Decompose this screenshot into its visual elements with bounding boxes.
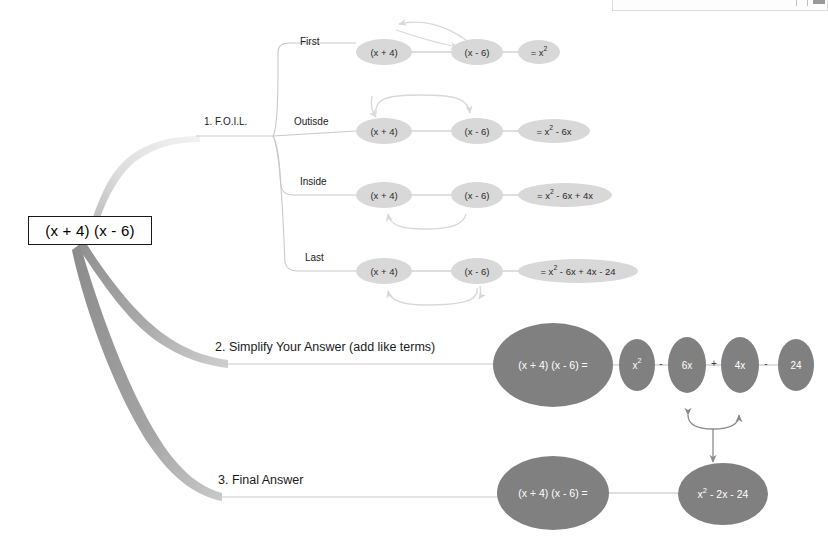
branch-label-simplify: 2. Simplify Your Answer (add like terms): [215, 340, 435, 354]
subbranch-label-first: First: [300, 36, 320, 47]
arrow-like-terms-u: [688, 415, 739, 429]
simplify-term-6x-label: 6x: [682, 360, 693, 371]
foil-node-inside-a-label: (x + 4): [370, 190, 397, 201]
arrow-first-up: [399, 22, 470, 43]
foil-node-inside-result-label: = x2 - 6x + 4x: [537, 188, 593, 200]
root-expression-label: (x + 4) (x - 6): [45, 222, 134, 239]
final-lead-node-label: (x + 4) (x - 6) =: [518, 487, 587, 499]
branch-label-foil: 1. F.O.I.L.: [204, 116, 247, 127]
subbranch-line-outside: [273, 131, 356, 136]
foil-node-outside-b-label: (x - 6): [465, 126, 490, 137]
foil-node-first-b-label: (x - 6): [465, 47, 490, 58]
ribbon-branch-final: [72, 244, 222, 501]
foil-node-last-b-label: (x - 6): [465, 266, 490, 277]
arrow-inside-u: [388, 214, 466, 229]
arrow-last-u-left: [388, 288, 477, 305]
arrow-last-tip: [479, 286, 481, 299]
arrow-outside-right: [376, 95, 470, 114]
foil-node-last-a-label: (x + 4): [370, 266, 397, 277]
arrow-outside-left: [371, 96, 376, 117]
subbranch-label-last: Last: [305, 252, 324, 263]
simplify-op-plus: +: [711, 358, 717, 369]
subbranch-label-inside: Inside: [300, 176, 327, 187]
subbranch-label-outside: Outisde: [294, 116, 329, 127]
foil-node-outside-a-label: (x + 4): [370, 126, 397, 137]
simplify-op-minus-1: -: [659, 358, 662, 369]
ribbon-branch-simplify: [78, 240, 228, 368]
foil-node-inside-b-label: (x - 6): [465, 190, 490, 201]
foil-node-first-a-label: (x + 4): [370, 47, 397, 58]
simplify-term-4x-label: 4x: [735, 360, 746, 371]
mindmap-svg: 1. F.O.I.L. First (x + 4) (x - 6) = x2 O…: [0, 0, 828, 552]
simplify-lead-node-label: (x + 4) (x - 6) =: [518, 359, 587, 371]
simplify-op-minus-2: -: [764, 358, 767, 369]
foil-node-outside-result-label: = x2 - 6x: [536, 124, 571, 136]
mindmap-canvas: 1. F.O.I.L. First (x + 4) (x - 6) = x2 O…: [0, 0, 828, 552]
branch-label-final: 3. Final Answer: [218, 473, 303, 487]
simplify-term-24-label: 24: [790, 360, 802, 371]
foil-node-last-result-label: = x2 - 6x + 4x - 24: [540, 264, 615, 276]
root-expression-box[interactable]: (x + 4) (x - 6): [28, 216, 152, 245]
